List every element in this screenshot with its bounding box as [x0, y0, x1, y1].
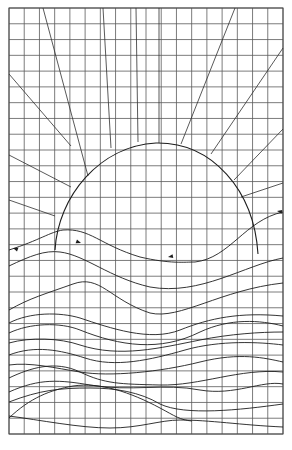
- sunset-grid-drawing: [0, 0, 292, 450]
